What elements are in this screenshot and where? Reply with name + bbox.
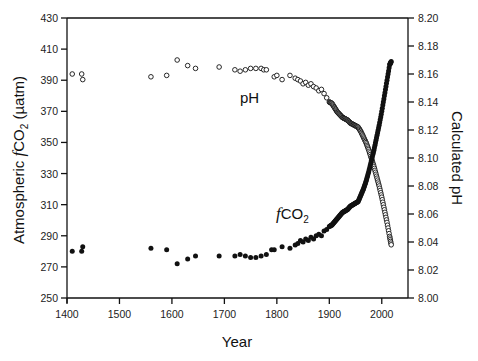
fco2-point xyxy=(193,254,198,259)
y-right-tick-label: 8.12 xyxy=(418,124,439,136)
data-points xyxy=(70,58,394,267)
plot-axes xyxy=(67,18,408,303)
fco2-point xyxy=(80,244,85,249)
axis-ticks: 1400150016001700180019002000250270290310… xyxy=(40,12,438,320)
x-tick-label: 1600 xyxy=(160,308,184,320)
svg-text:Calculated pH: Calculated pH xyxy=(449,111,466,205)
ph-point xyxy=(280,77,285,82)
chart-svg: 1400150016001700180019002000250270290310… xyxy=(0,0,478,361)
y-right-tick-label: 8.10 xyxy=(418,152,439,164)
fco2-point xyxy=(148,246,153,251)
fco2-point xyxy=(79,249,84,254)
fco2-point xyxy=(319,233,324,238)
x-tick-label: 1400 xyxy=(55,308,79,320)
fco2-point xyxy=(280,244,285,249)
ph-point xyxy=(238,69,243,74)
y-left-tick-label: 410 xyxy=(40,43,58,55)
y-right-tick-label: 8.16 xyxy=(418,68,439,80)
ph-point xyxy=(288,73,293,78)
ph-point xyxy=(70,72,75,77)
ph-point xyxy=(80,77,85,82)
ph-point xyxy=(217,65,222,70)
fco2-point xyxy=(264,252,269,257)
ph-point xyxy=(275,73,280,78)
fco2-point xyxy=(175,261,180,266)
y-right-tick-label: 8.02 xyxy=(418,264,439,276)
x-tick-label: 1700 xyxy=(213,308,237,320)
ph-point xyxy=(248,66,253,71)
fco2-point xyxy=(287,246,292,251)
ph-point xyxy=(254,66,259,71)
y-right-tick-label: 8.04 xyxy=(418,236,439,248)
x-tick-label: 1900 xyxy=(318,308,342,320)
y-left-tick-label: 390 xyxy=(40,74,58,86)
fco2-point xyxy=(248,255,253,260)
y-left-tick-label: 350 xyxy=(40,136,58,148)
ph-point xyxy=(79,72,84,77)
x-tick-label: 2000 xyxy=(370,308,394,320)
fco2-point xyxy=(164,247,169,252)
y-right-tick-label: 8.20 xyxy=(418,12,439,24)
fco2-point xyxy=(232,254,237,259)
y-left-tick-label: 330 xyxy=(40,168,58,180)
y-left-tick-label: 270 xyxy=(40,261,58,273)
ph-point xyxy=(233,68,238,73)
fco2-point xyxy=(259,254,264,259)
ph-point xyxy=(175,58,180,63)
y-axis-left-label: Atmospheric fCO2 (µatm) xyxy=(9,76,30,244)
fco2-point xyxy=(243,254,248,259)
ph-point xyxy=(243,68,248,73)
fco2-point xyxy=(70,249,75,254)
y-right-tick-label: 8.06 xyxy=(418,208,439,220)
svg-text:Atmospheric fCO2 (µatm): Atmospheric fCO2 (µatm) xyxy=(9,76,30,244)
y-right-tick-label: 8.08 xyxy=(418,180,439,192)
fco2-point xyxy=(253,255,258,260)
fco2-point xyxy=(217,254,222,259)
y-axis-right-label: Calculated pH xyxy=(449,111,466,205)
ph-point xyxy=(319,87,324,92)
ph-point xyxy=(149,75,154,80)
x-axis-label: Year xyxy=(222,333,252,350)
ph-point xyxy=(389,243,394,248)
ph-point xyxy=(264,68,269,73)
annotation-fco2: fCO2 xyxy=(276,204,309,225)
y-left-tick-label: 250 xyxy=(40,292,58,304)
annotation-ph: pH xyxy=(240,89,259,106)
fco2-point xyxy=(389,59,394,64)
ph-point xyxy=(193,66,198,71)
y-left-tick-label: 370 xyxy=(40,105,58,117)
fco2-point xyxy=(185,257,190,262)
ph-point xyxy=(164,73,169,78)
y-left-tick-label: 430 xyxy=(40,12,58,24)
y-right-tick-label: 8.18 xyxy=(418,40,439,52)
x-tick-label: 1500 xyxy=(108,308,132,320)
fco2-point xyxy=(238,252,243,257)
ph-point xyxy=(322,91,327,96)
fco2-point xyxy=(272,247,277,252)
y-right-tick-label: 8.14 xyxy=(418,96,439,108)
svg-text:fCO2: fCO2 xyxy=(276,204,309,225)
x-tick-label: 1800 xyxy=(265,308,289,320)
y-right-tick-label: 8.00 xyxy=(418,292,439,304)
ph-point xyxy=(324,96,329,101)
y-left-tick-label: 310 xyxy=(40,199,58,211)
ph-point xyxy=(185,63,190,68)
y-left-tick-label: 290 xyxy=(40,230,58,242)
